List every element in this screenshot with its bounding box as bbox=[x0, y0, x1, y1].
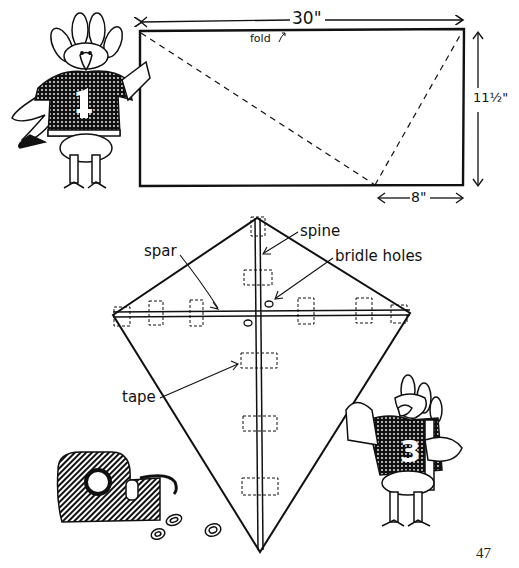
kite-spine bbox=[255, 218, 263, 550]
spar-label: spar bbox=[144, 244, 177, 259]
spine-pointer-arrow bbox=[264, 232, 298, 253]
page-number: 47 bbox=[476, 545, 491, 562]
height-label: 11½" bbox=[473, 91, 508, 104]
paper-rectangle bbox=[140, 29, 464, 186]
svg-text:3: 3 bbox=[400, 434, 421, 469]
turkey-player-3-illustration: 3 bbox=[346, 375, 462, 526]
bridle-holes-pointer-arrow bbox=[276, 258, 333, 298]
spar-pointer-arrow bbox=[180, 255, 218, 308]
bridle-hole-lower bbox=[244, 320, 252, 326]
tape-pointer-arrow bbox=[160, 364, 238, 398]
spine-label: spine bbox=[300, 224, 340, 239]
width-label: 30" bbox=[292, 10, 321, 27]
tape-dispenser-illustration bbox=[58, 452, 223, 541]
tape-label: tape bbox=[122, 390, 156, 405]
fold-line-diagonal bbox=[141, 33, 375, 185]
fold-arrow-icon bbox=[279, 33, 285, 42]
offset-label: 8" bbox=[411, 190, 426, 204]
fold-line-short bbox=[375, 32, 462, 185]
bridle-holes-label: bridle holes bbox=[335, 249, 422, 264]
fold-label: fold bbox=[250, 33, 271, 44]
height-dimension-arrow bbox=[473, 32, 483, 186]
bridle-hole-upper bbox=[265, 301, 273, 307]
jersey-number-1: 1 bbox=[73, 88, 94, 118]
